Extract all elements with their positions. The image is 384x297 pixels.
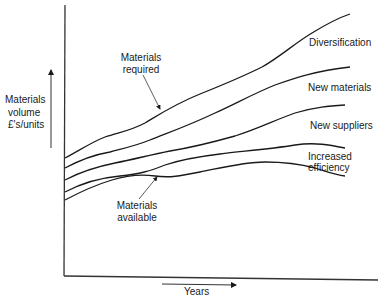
- x-axis-label: Years: [184, 286, 209, 297]
- x-axis: [64, 276, 378, 280]
- materials-required-label-line2: required: [116, 64, 166, 75]
- curve-new-suppliers: [65, 105, 345, 180]
- curve-materials-available: [65, 162, 345, 200]
- new-suppliers-label: New suppliers: [310, 120, 373, 131]
- y-axis-label-line1: Materials: [5, 94, 46, 105]
- curve-increased-efficiency-upper: [65, 144, 345, 192]
- y-axis-label-line3: £'s/units: [8, 119, 44, 130]
- x-direction-arrow: [162, 284, 236, 285]
- y-axis-label-line2: volume: [8, 107, 40, 118]
- increased-efficiency-label-line2: efficiency: [308, 162, 350, 173]
- available-pointer: [139, 177, 157, 199]
- required-pointer: [143, 75, 160, 109]
- materials-required-label-line1: Materials: [116, 52, 166, 63]
- materials-available-label-line1: Materials: [112, 200, 162, 211]
- materials-available-label-line2: available: [112, 212, 162, 223]
- increased-efficiency-label-line1: Increased: [308, 151, 352, 162]
- new-materials-label: New materials: [308, 82, 371, 93]
- diversification-label: Diversification: [309, 37, 371, 48]
- y-axis: [64, 5, 65, 276]
